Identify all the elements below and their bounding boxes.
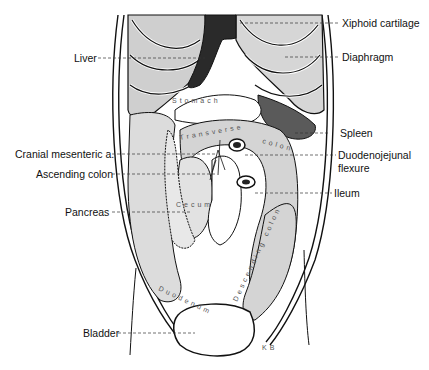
- label-flexure: flexure: [338, 162, 370, 174]
- label-ascending-colon: Ascending colon: [36, 168, 113, 180]
- label-xiphoid-cartilage: Xiphoid cartilage: [342, 17, 420, 29]
- label-liver: Liver: [74, 52, 97, 64]
- bladder-shape: [174, 304, 255, 356]
- label-spleen: Spleen: [340, 127, 373, 139]
- label-ileum: Ileum: [334, 187, 360, 199]
- cecum-text: Cecum: [176, 201, 213, 208]
- signature-text: KB: [262, 344, 277, 351]
- label-duodenojejunal: Duodenojejunal: [338, 149, 411, 161]
- stomach-text: Stomach: [172, 97, 221, 104]
- label-cranial-mesenteric: Cranial mesenteric a.: [15, 148, 114, 160]
- lumen-dark: [233, 142, 241, 148]
- lumen-dark-2: [242, 180, 250, 185]
- label-diaphragm: Diaphragm: [342, 51, 393, 63]
- label-bladder: Bladder: [83, 327, 119, 339]
- label-pancreas: Pancreas: [65, 206, 109, 218]
